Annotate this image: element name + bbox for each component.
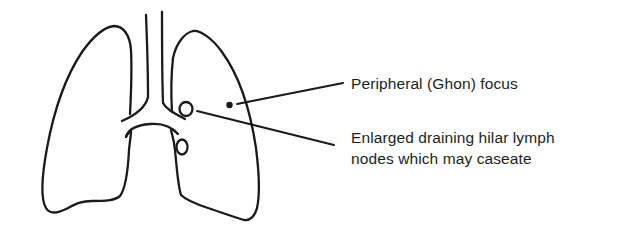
- hilar-leader-line: [197, 111, 334, 145]
- left-lung-outline: [42, 26, 131, 213]
- hilar-nodes-label: Enlarged draining hilar lymph nodes whic…: [351, 127, 555, 169]
- right-lung-outline: [171, 31, 259, 220]
- hilar-lymph-node-upper: [180, 102, 193, 116]
- ghon-focus-label: Peripheral (Ghon) focus: [351, 73, 518, 94]
- hilar-nodes-text-line2: nodes which may caseate: [351, 148, 555, 169]
- ghon-leader-line: [237, 83, 343, 104]
- ghon-focus-text: Peripheral (Ghon) focus: [351, 75, 518, 92]
- ghon-focus-dot: [226, 102, 232, 108]
- hilar-lymph-node-lower: [177, 140, 188, 155]
- lung-diagram: [0, 0, 643, 235]
- hilar-nodes-text-line1: Enlarged draining hilar lymph: [351, 127, 555, 148]
